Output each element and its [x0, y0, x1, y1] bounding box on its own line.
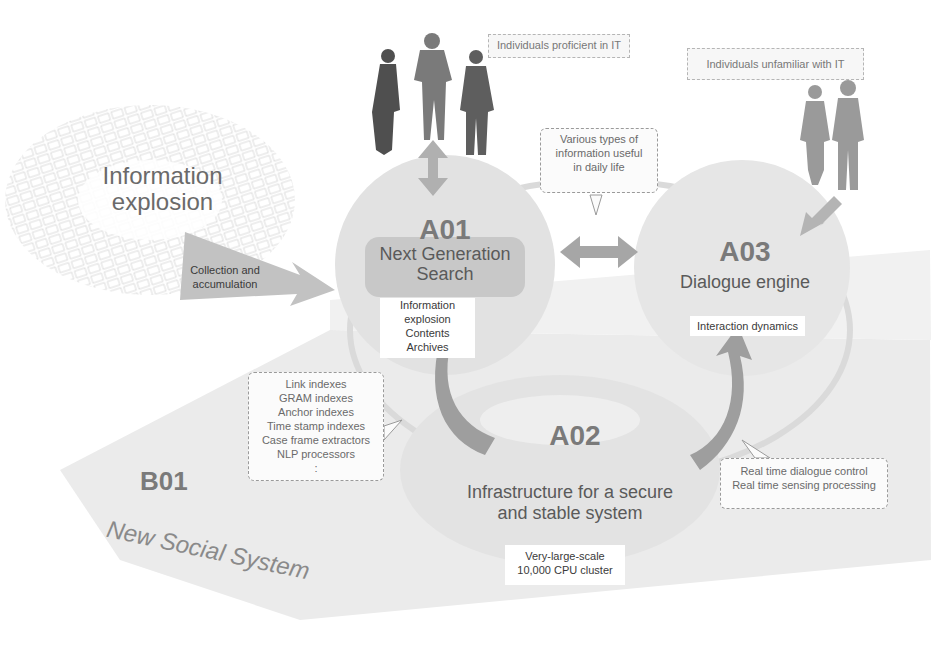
a01-items: Information explosion Contents Archives: [380, 298, 475, 358]
a01-code: A01: [385, 214, 505, 246]
a02-title: Infrastructure for a secure and stable s…: [450, 482, 690, 524]
b01-code: B01: [140, 466, 220, 497]
unfamiliar-people-silhouettes: [800, 80, 864, 190]
realtime-callout: Real time dialogue control Real time sen…: [720, 458, 888, 509]
callout-daily-tail: [590, 195, 602, 215]
proficient-people-silhouettes: [372, 33, 494, 155]
a02-code: A02: [530, 420, 620, 452]
a03-title: Dialogue engine: [660, 272, 830, 293]
a03-code: A03: [690, 236, 800, 268]
indexes-callout: Link indexes GRAM indexes Anchor indexes…: [248, 372, 384, 481]
a01-title: Next Generation Search: [360, 244, 530, 284]
info-explosion-title: Information explosion: [90, 163, 235, 215]
a01-a03-double-arrow: [560, 236, 638, 268]
a02-cluster: Very-large-scale 10,000 CPU cluster: [505, 545, 625, 585]
collection-arrow-label: Collection and accumulation: [170, 263, 280, 291]
proficient-label: Individuals proficient in IT: [488, 34, 630, 58]
a03-subtitle: Interaction dynamics: [690, 316, 805, 336]
unfamiliar-label: Individuals unfamiliar with IT: [687, 48, 864, 80]
daily-info-callout: Various types of information useful in d…: [540, 128, 658, 193]
